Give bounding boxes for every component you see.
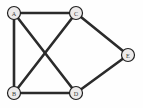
graph-canvas: ACEBD xyxy=(0,0,143,108)
graph-node-d[interactable]: D xyxy=(70,87,83,100)
graph-node-e[interactable]: E xyxy=(122,49,135,62)
edge-layer xyxy=(14,13,128,93)
graph-edge-d-e xyxy=(76,55,128,93)
graph-node-c[interactable]: C xyxy=(70,7,83,20)
graph-node-b[interactable]: B xyxy=(8,87,21,100)
node-label-d: D xyxy=(74,90,79,97)
node-label-c: C xyxy=(74,10,78,17)
node-label-b: B xyxy=(12,90,16,97)
graph-edge-c-e xyxy=(76,13,128,55)
graph-node-a[interactable]: A xyxy=(8,7,21,20)
node-label-e: E xyxy=(126,52,130,59)
node-label-a: A xyxy=(12,10,17,17)
graph-figure: ACEBD xyxy=(0,0,143,108)
